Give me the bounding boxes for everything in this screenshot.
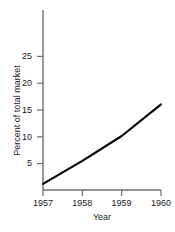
x-tick-label-1960: 1960 [144, 199, 175, 208]
x-tick-label-1957: 1957 [26, 199, 60, 208]
data-series-line [43, 104, 161, 183]
x-axis-label: Year [42, 213, 162, 222]
x-tick-marks [43, 190, 161, 196]
y-axis-label: Percent of total market [13, 47, 22, 175]
x-tick-label-1958: 1958 [65, 199, 99, 208]
line-chart: 25 20 15 10 5 1957 1958 1959 1960 Percen… [0, 0, 175, 232]
x-tick-label-1959: 1959 [105, 199, 139, 208]
y-tick-marks [37, 56, 43, 163]
